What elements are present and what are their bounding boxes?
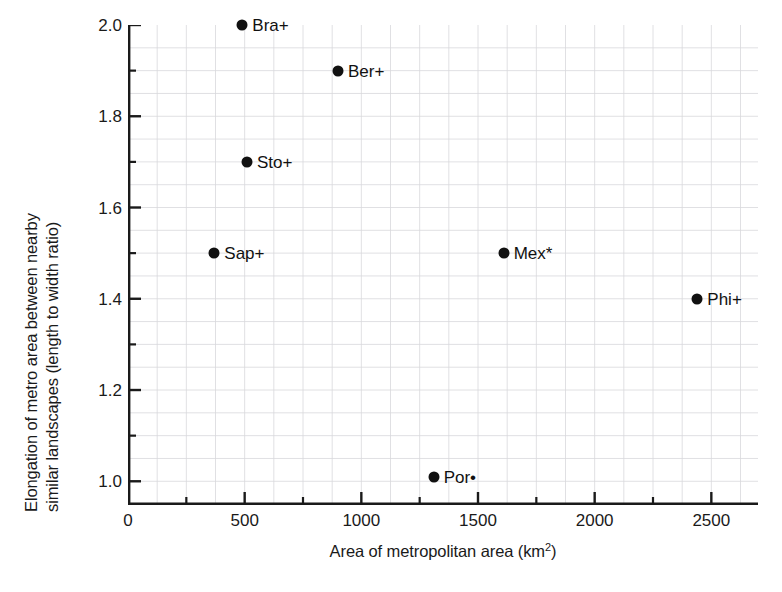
- x-tick-label: 500: [230, 512, 258, 529]
- y-tick-label: 1.2: [78, 382, 122, 399]
- y-tick-label: 2.0: [78, 17, 122, 34]
- x-tick-label: 1000: [342, 512, 380, 529]
- x-tick-label: 1500: [459, 512, 497, 529]
- x-tick-label: 2000: [576, 512, 614, 529]
- data-point[interactable]: [209, 248, 220, 259]
- data-point[interactable]: [237, 20, 248, 31]
- data-points-layer: Bra+Ber+Sto+Sap+Mex*Phi+Por•: [128, 25, 758, 505]
- x-axis-title: Area of metropolitan area (km2): [128, 542, 758, 561]
- data-point-label: Phi+: [707, 290, 742, 307]
- data-point[interactable]: [333, 65, 344, 76]
- data-point[interactable]: [498, 248, 509, 259]
- data-point[interactable]: [428, 471, 439, 482]
- x-axis-title-tail: ): [551, 542, 556, 560]
- x-axis-title-main: Area of metropolitan area (km: [330, 542, 545, 560]
- data-point-label: Ber+: [348, 62, 384, 79]
- data-point-label: Sap+: [224, 245, 264, 262]
- data-point-label: Mex*: [514, 245, 553, 262]
- y-axis-tick-labels: 1.01.21.41.61.82.0: [72, 25, 122, 505]
- data-point[interactable]: [242, 156, 253, 167]
- data-point-label: Bra+: [252, 17, 288, 34]
- y-tick-label: 1.6: [78, 199, 122, 216]
- y-axis-title-line-1: Elongation of metro area between nearby: [22, 213, 41, 512]
- y-tick-label: 1.8: [78, 108, 122, 125]
- data-point[interactable]: [692, 293, 703, 304]
- data-point-label: Sto+: [257, 153, 292, 170]
- data-point-label: Por•: [444, 468, 476, 485]
- y-axis-title-line-2: similar landscapes (length to width rati…: [43, 222, 62, 512]
- y-tick-label: 1.4: [78, 290, 122, 307]
- y-tick-label: 1.0: [78, 473, 122, 490]
- x-axis-tick-labels: 05001000150020002500: [128, 512, 758, 540]
- x-tick-label: 0: [123, 512, 132, 529]
- scatter-chart-figure: Elongation of metro area between nearby …: [0, 0, 782, 592]
- x-tick-label: 2500: [692, 512, 730, 529]
- y-axis-title: Elongation of metro area between nearby …: [0, 0, 70, 530]
